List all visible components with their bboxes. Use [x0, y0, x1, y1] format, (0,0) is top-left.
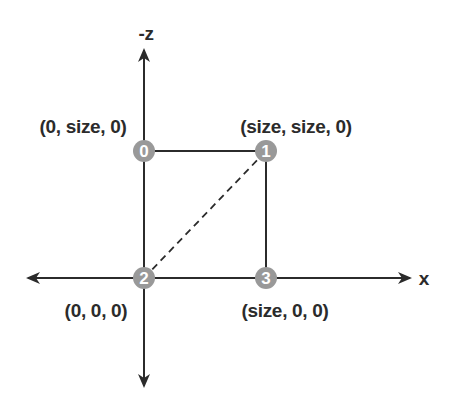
vertex-1-coordinate-label: (size, size, 0) [240, 116, 352, 137]
vertex-2-number: 2 [139, 269, 148, 288]
vertex-1-number: 1 [261, 142, 270, 161]
vertex-2: 2 [133, 267, 155, 289]
vertex-3-coordinate-label: (size, 0, 0) [241, 300, 328, 321]
vertex-2-coordinate-label: (0, 0, 0) [65, 300, 128, 321]
axes [28, 50, 410, 386]
square-edges [144, 151, 266, 278]
x-axis-label: x [419, 268, 430, 289]
vertex-0: 0 [133, 140, 155, 162]
vertex-1: 1 [255, 140, 277, 162]
vertex-3-number: 3 [261, 269, 270, 288]
edge-2-1-diagonal [144, 151, 266, 278]
coordinate-diagram: -z x 0 1 2 3 (0, size, 0) (size, size, 0… [0, 0, 450, 411]
vertex-0-number: 0 [139, 142, 148, 161]
z-axis-label: -z [138, 23, 153, 44]
vertex-3: 3 [255, 267, 277, 289]
vertex-0-coordinate-label: (0, size, 0) [39, 116, 126, 137]
